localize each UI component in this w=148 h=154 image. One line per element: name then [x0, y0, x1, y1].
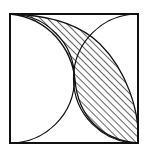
geometry-diagram: [0, 0, 148, 154]
diagram-canvas: [0, 0, 148, 154]
